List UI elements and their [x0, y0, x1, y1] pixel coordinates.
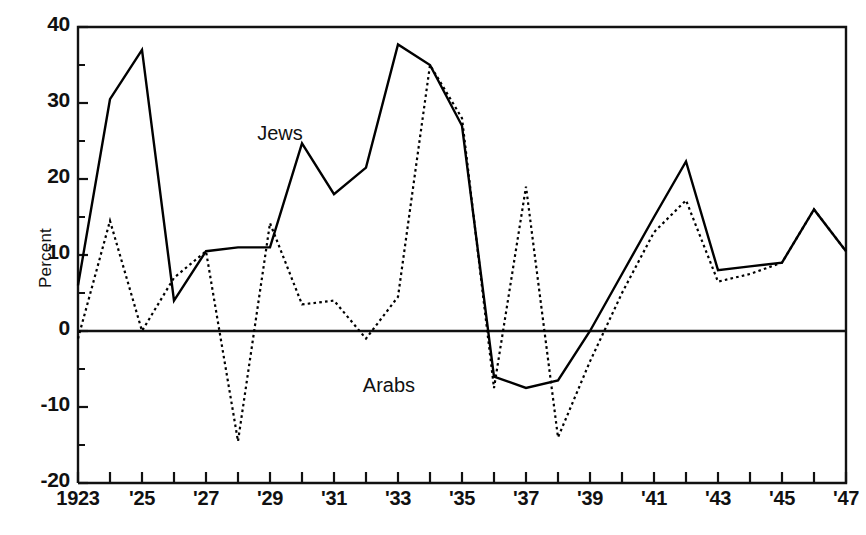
series-line-jews	[78, 44, 846, 388]
axis-frame-rect	[78, 27, 846, 483]
series-line-arabs	[78, 65, 846, 441]
axis-ticks	[78, 27, 846, 483]
data-series-lines	[78, 44, 846, 441]
chart-container: Percent 403020100-10-20 1923'25'27'29'31…	[0, 0, 866, 535]
axes-frame	[78, 27, 846, 483]
plot-area	[0, 0, 866, 535]
